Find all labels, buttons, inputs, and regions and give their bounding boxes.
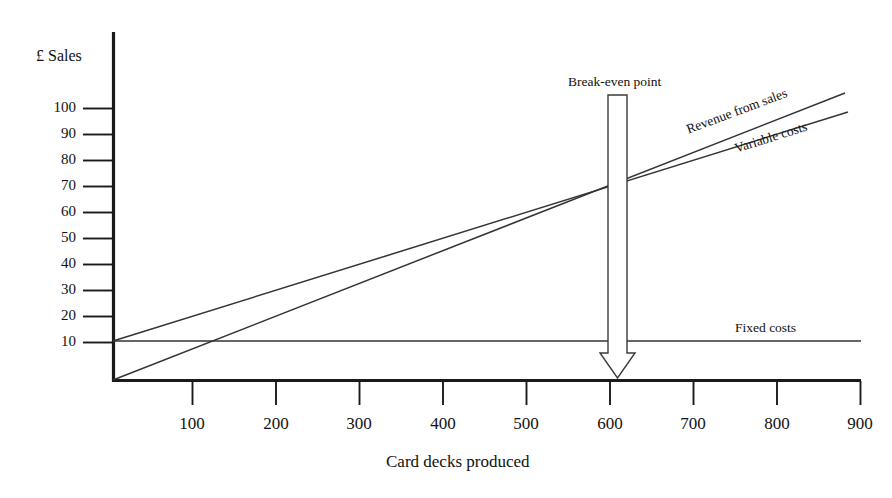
x-tick-label-300: 300	[319, 414, 399, 434]
x-tick-label-200: 200	[236, 414, 316, 434]
x-tick-label-100: 100	[152, 414, 232, 434]
y-tick-label-20: 20	[26, 307, 76, 324]
y-tick-label-40: 40	[26, 255, 76, 272]
chart-canvas: £ Sales 100 90 80 70 60 50 40 30 20 10 1…	[0, 0, 892, 498]
x-tick-marks	[193, 381, 861, 405]
y-tick-label-80: 80	[26, 151, 76, 168]
y-tick-label-90: 90	[26, 125, 76, 142]
x-tick-label-800: 800	[737, 414, 817, 434]
y-tick-label-60: 60	[26, 203, 76, 220]
x-tick-label-600: 600	[570, 414, 650, 434]
series-label-fixed-costs: Fixed costs	[735, 320, 796, 336]
y-tick-marks	[83, 109, 113, 343]
series-line-revenue-from-sales	[113, 93, 845, 380]
y-tick-label-10: 10	[26, 333, 76, 350]
break-even-arrow	[600, 95, 635, 378]
x-tick-label-900: 900	[820, 414, 892, 434]
y-tick-label-100: 100	[26, 99, 76, 116]
y-tick-label-70: 70	[26, 177, 76, 194]
y-tick-label-50: 50	[26, 229, 76, 246]
x-tick-label-700: 700	[653, 414, 733, 434]
x-axis-title: Card decks produced	[386, 452, 530, 472]
x-tick-label-400: 400	[403, 414, 483, 434]
x-tick-label-500: 500	[486, 414, 566, 434]
y-tick-label-30: 30	[26, 281, 76, 298]
annotation-break-even-point: Break-even point	[568, 74, 661, 90]
y-axis-title: £ Sales	[36, 47, 82, 65]
